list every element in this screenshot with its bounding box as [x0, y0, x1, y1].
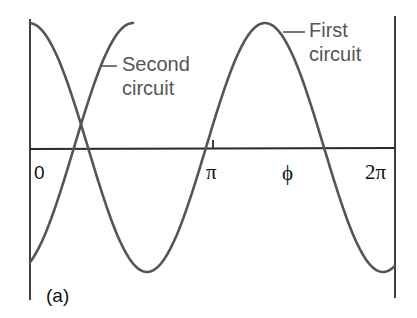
x-tick-2pi: 2π [365, 160, 387, 184]
second-circuit-label-line2: circuit [122, 77, 175, 99]
x-tick-pi: π [206, 160, 217, 184]
panel-label: (a) [46, 285, 69, 306]
x-tick-0: 0 [34, 162, 45, 183]
first-circuit-label-line1: First [309, 19, 348, 41]
second-circuit-label-line1: Second [122, 53, 190, 75]
second-circuit-curve [30, 23, 133, 262]
first-circuit-label-line2: circuit [309, 43, 362, 65]
x-tick-phi: ϕ [282, 161, 293, 185]
circuit-phase-diagram: Second circuit First circuit 0 π ϕ 2π (a… [0, 0, 417, 318]
